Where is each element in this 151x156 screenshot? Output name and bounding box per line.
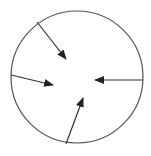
arrow-left-icon bbox=[11, 75, 53, 85]
inward-arrows-diagram bbox=[0, 0, 151, 156]
arrow-top-left-icon bbox=[37, 22, 66, 59]
boundary-circle bbox=[11, 11, 143, 143]
diagram-canvas bbox=[0, 0, 151, 156]
arrows-group bbox=[11, 22, 143, 144]
arrow-bottom-icon bbox=[66, 98, 83, 144]
